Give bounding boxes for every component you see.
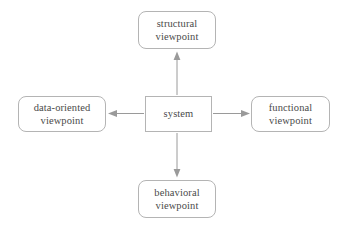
- edge-system-to-data-oriented: [108, 110, 144, 117]
- node-behavioral-viewpoint[interactable]: behavioral viewpoint: [138, 180, 216, 218]
- node-label-line2: viewpoint: [269, 114, 312, 128]
- arrowhead-left-icon: [108, 110, 117, 117]
- arrowhead-down-icon: [174, 169, 181, 178]
- node-label-line1: system: [164, 107, 194, 121]
- diagram-canvas: structural viewpoint data-oriented viewp…: [0, 0, 349, 231]
- edge-system-to-functional: [213, 110, 250, 117]
- node-label-line1: functional: [269, 101, 313, 115]
- arrowhead-right-icon: [241, 110, 250, 117]
- edge-system-to-structural: [174, 52, 181, 96]
- node-functional-viewpoint[interactable]: functional viewpoint: [251, 96, 330, 132]
- arrowhead-up-icon: [174, 52, 181, 61]
- node-label-line2: viewpoint: [41, 114, 84, 128]
- node-label-line1: structural: [157, 17, 198, 31]
- node-structural-viewpoint[interactable]: structural viewpoint: [138, 11, 216, 49]
- node-data-oriented-viewpoint[interactable]: data-oriented viewpoint: [18, 96, 106, 132]
- node-label-line1: behavioral: [154, 186, 199, 200]
- node-label-line2: viewpoint: [156, 199, 199, 213]
- node-system[interactable]: system: [145, 96, 212, 132]
- edge-system-to-behavioral: [174, 133, 181, 178]
- node-label-line1: data-oriented: [34, 101, 91, 115]
- node-label-line2: viewpoint: [156, 30, 199, 44]
